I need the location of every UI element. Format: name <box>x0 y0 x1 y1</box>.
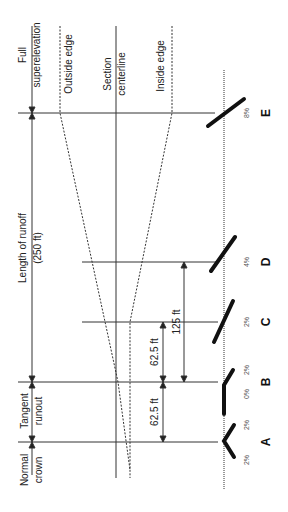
section-b-shape <box>224 370 233 414</box>
section-b-label: B <box>259 377 273 386</box>
section-a-left-slope: 2% <box>243 455 250 465</box>
station-lines <box>18 113 218 442</box>
section-d-slope: 4% <box>243 257 250 267</box>
section-d-shape <box>211 237 235 271</box>
section-c-label: C <box>259 317 273 326</box>
section-a-shape <box>224 425 234 457</box>
section-b-right-slope: 2% <box>243 365 250 375</box>
section-b-left-slope: 0% <box>243 389 250 399</box>
section-e-slope: 8% <box>243 108 250 118</box>
normal-crown-label-2: crown <box>33 457 44 484</box>
tangent-runout-label-2: runout <box>33 397 44 426</box>
tangent-runout-label: Tangent <box>19 393 30 429</box>
inside-edge-label: Inside edge <box>155 40 166 92</box>
full-superelevation-label: Full <box>17 47 28 63</box>
outside-edge-label: Outside edge <box>63 34 74 94</box>
section-c-slope: 2% <box>243 317 250 327</box>
section-a-label: A <box>259 437 273 446</box>
section-e-label: E <box>259 109 273 117</box>
dimension-arrows <box>160 262 187 442</box>
section-centerline-label: Section <box>102 57 113 90</box>
dimension-ab-label: 62.5 ft <box>149 398 160 426</box>
normal-crown-label: Normal <box>19 454 30 486</box>
length-of-runoff-label: Length of runoff <box>17 213 28 283</box>
dimension-bd-label: 125 ft <box>171 309 182 334</box>
cross-sections <box>208 99 244 457</box>
length-of-runoff-value: (250 ft) <box>32 232 43 264</box>
section-centerline-label-2: centerline <box>116 52 127 96</box>
superelevation-diagram: Full superelevation Length of runoff (25… <box>0 0 288 512</box>
section-a-right-slope: 2% <box>243 420 250 430</box>
section-d-label: D <box>259 257 273 266</box>
dimension-bc-label: 62.5 ft <box>149 338 160 366</box>
full-superelevation-label-2: superelevation <box>31 22 42 87</box>
